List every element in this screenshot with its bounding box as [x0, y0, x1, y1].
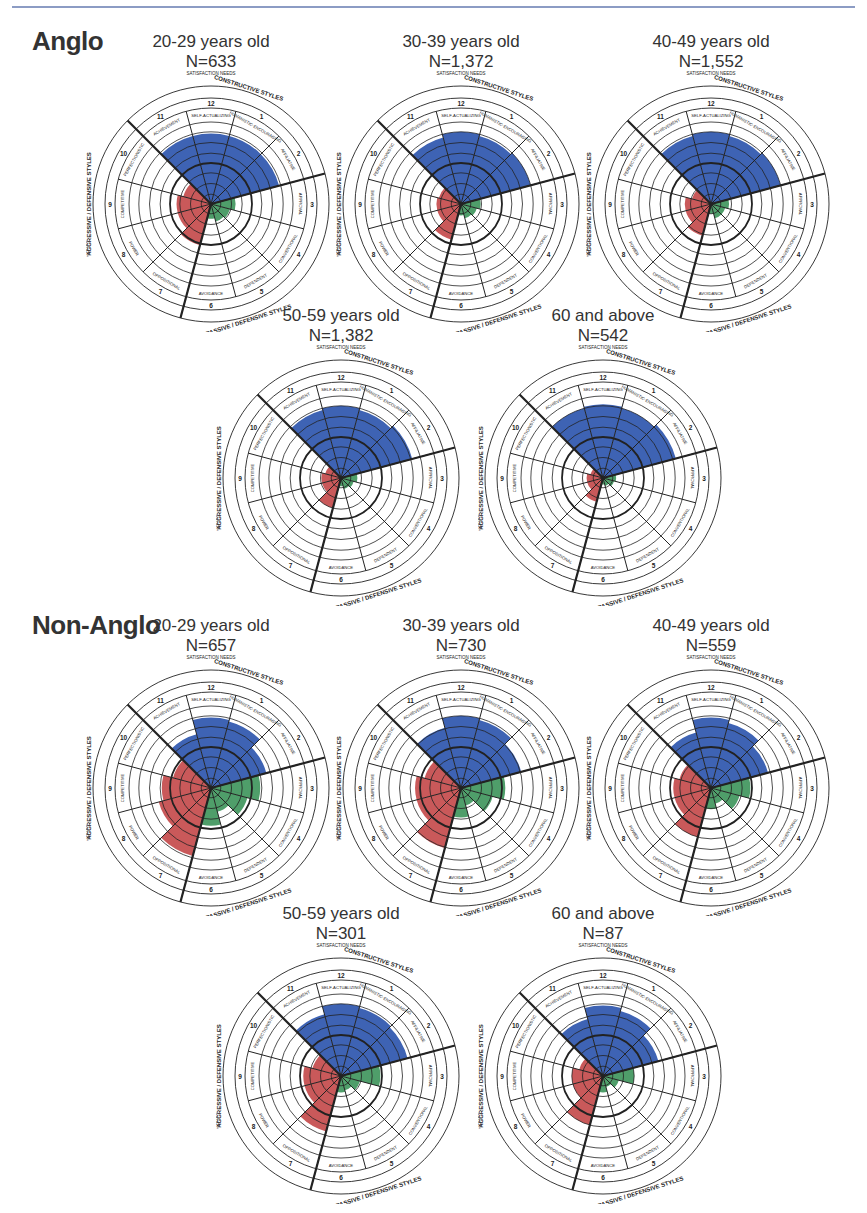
segment-number: 5	[652, 562, 656, 569]
segment-name: AFFILIATIVE	[672, 1020, 689, 1044]
segment-number: 8	[622, 835, 626, 842]
segment-name: AFFILIATIVE	[410, 422, 427, 446]
segment-number: 1	[760, 113, 764, 120]
segment-number: 8	[372, 251, 376, 258]
segment-number: 3	[440, 475, 444, 482]
segment-number: 5	[652, 1160, 656, 1167]
segment-number: 8	[122, 251, 126, 258]
panel-n: N=542	[478, 326, 728, 346]
segment-name: AVOIDANCE	[199, 875, 224, 880]
constructive-styles-label: CONSTRUCTIVE STYLES	[463, 74, 534, 102]
segment-number: 2	[797, 734, 801, 741]
segment-number: 2	[297, 150, 301, 157]
segment-number: 5	[760, 288, 764, 295]
segment-name: CONVENTIONAL	[408, 1104, 429, 1136]
segment-number: 9	[238, 1073, 242, 1080]
segment-name: AVOIDANCE	[199, 291, 224, 296]
circumplex-chart: 1HUMANISTIC-ENCOURAGING2AFFILIATIVE3APPR…	[336, 70, 586, 332]
segment-number: 2	[547, 734, 551, 741]
grid	[343, 670, 579, 906]
segment-number: 9	[608, 785, 612, 792]
segment-name: APPROVAL	[298, 777, 303, 800]
segment-name: OPPOSITIONAL	[152, 855, 182, 875]
segment-name: DEPENDENT	[243, 856, 268, 873]
circumplex-panel: 60 and above N=542 1HUMANISTIC-ENCOURAGI…	[478, 306, 728, 606]
satisfaction-needs-label: SATISFACTION NEEDS	[317, 345, 366, 350]
segment-number: 3	[310, 201, 314, 208]
satisfaction-needs-label: SATISFACTION NEEDS	[187, 655, 236, 660]
satisfaction-needs-label: SATISFACTION NEEDS	[579, 345, 628, 350]
segment-number: 6	[209, 886, 213, 893]
top-rule	[12, 6, 855, 8]
segment-number: 11	[549, 985, 556, 992]
segment-number: 1	[260, 697, 264, 704]
satisfaction-needs-label: SATISFACTION NEEDS	[317, 943, 366, 948]
segment-number: 11	[407, 697, 414, 704]
segment-name: OPPOSITIONAL	[282, 545, 312, 565]
segment-name: DEPENDENT	[635, 1144, 660, 1161]
segment-number: 4	[689, 525, 693, 532]
panel-age: 20-29 years old	[86, 32, 336, 52]
panel-title: 20-29 years old N=657	[86, 616, 336, 656]
segment-name: AVOIDANCE	[329, 565, 354, 570]
segment-name: COMPETITIVE	[370, 190, 375, 219]
segment-number: 1	[260, 113, 264, 120]
panel-title: 50-59 years old N=301	[216, 904, 466, 944]
segment-number: 10	[250, 424, 258, 431]
panel-title: 40-49 years old N=559	[586, 616, 836, 656]
segment-number: 5	[390, 562, 394, 569]
constructive-styles-label: CONSTRUCTIVE STYLES	[605, 946, 676, 974]
segment-number: 9	[108, 201, 112, 208]
segment-name: OPPOSITIONAL	[152, 271, 182, 291]
circumplex-chart: 1HUMANISTIC-ENCOURAGING2AFFILIATIVE3APPR…	[86, 654, 336, 916]
segment-number: 3	[560, 201, 564, 208]
segment-name: CONVENTIONAL	[278, 816, 299, 848]
segment-name: SELF-ACTUALIZING	[321, 387, 361, 392]
circumplex-panel: 20-29 years old N=657 1HUMANISTIC-ENCOUR…	[86, 616, 336, 916]
segment-number: 4	[547, 251, 551, 258]
segment-name: AVOIDANCE	[699, 291, 724, 296]
segment-number: 8	[252, 525, 256, 532]
segment-name: AVOIDANCE	[449, 875, 474, 880]
segment-number: 12	[207, 100, 215, 107]
grid	[593, 670, 829, 906]
segment-name: AFFILIATIVE	[530, 148, 547, 172]
segment-name: OPPOSITIONAL	[652, 855, 682, 875]
segment-name: APPROVAL	[428, 467, 433, 490]
segment-number: 7	[551, 1160, 555, 1167]
segment-number: 5	[390, 1160, 394, 1167]
segment-number: 12	[707, 100, 715, 107]
panel-n: N=1,382	[216, 326, 466, 346]
constructive-styles-label: CONSTRUCTIVE STYLES	[213, 658, 284, 686]
segment-number: 1	[652, 985, 656, 992]
segment-name: OPPOSITIONAL	[652, 271, 682, 291]
segment-name: SELF-ACTUALIZING	[583, 387, 623, 392]
satisfaction-needs-label: SATISFACTION NEEDS	[437, 71, 486, 76]
segment-name: SELF-ACTUALIZING	[441, 697, 481, 702]
segment-number: 11	[657, 113, 664, 120]
segment-number: 8	[514, 1123, 518, 1130]
panel-n: N=1,552	[586, 52, 836, 72]
circumplex-chart: 1HUMANISTIC-ENCOURAGING2AFFILIATIVE3APPR…	[586, 654, 836, 916]
panel-n: N=1,372	[336, 52, 586, 72]
grid	[485, 958, 721, 1194]
segment-number: 1	[390, 387, 394, 394]
segment-name: CONVENTIONAL	[670, 506, 691, 538]
grid	[223, 360, 459, 596]
segment-number: 7	[659, 288, 663, 295]
segment-name: OPPOSITIONAL	[544, 1143, 574, 1163]
grid	[93, 86, 329, 322]
panel-age: 20-29 years old	[86, 616, 336, 636]
segment-name: AFFILIATIVE	[530, 732, 547, 756]
segment-number: 12	[599, 972, 607, 979]
panel-title: 60 and above N=87	[478, 904, 728, 944]
segment-number: 1	[510, 113, 514, 120]
circumplex-chart: 1HUMANISTIC-ENCOURAGING2AFFILIATIVE3APPR…	[336, 654, 586, 916]
segment-fills	[661, 132, 781, 236]
panel-title: 30-39 years old N=1,372	[336, 32, 586, 72]
segment-number: 2	[427, 424, 431, 431]
segment-name: APPROVAL	[798, 777, 803, 800]
segment-number: 10	[512, 424, 520, 431]
segment-number: 12	[457, 684, 465, 691]
panel-age: 60 and above	[478, 306, 728, 326]
